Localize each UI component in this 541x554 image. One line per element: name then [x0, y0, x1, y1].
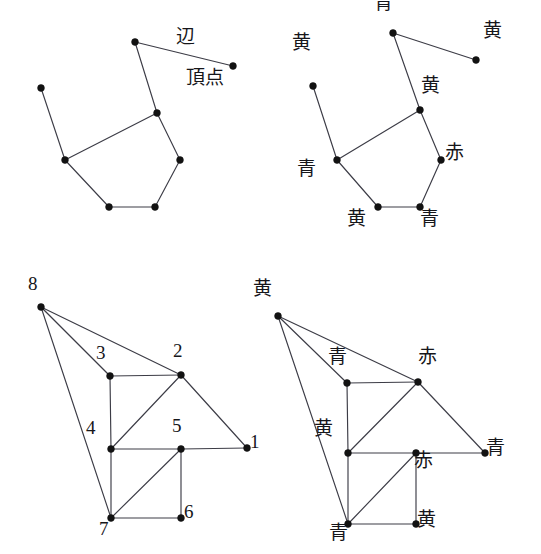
graph-vertex [108, 515, 115, 522]
graph-edge [420, 160, 441, 207]
graph-edge [65, 113, 157, 160]
vertex-label-bottom-left-2: 2 [173, 341, 183, 360]
graph-vertex [38, 304, 45, 311]
graph-vertex [62, 157, 69, 164]
graph-edge [337, 110, 420, 160]
vertex-label-bottom-left-7: 7 [99, 519, 109, 538]
graph-vertex [390, 30, 397, 37]
graph-edge [393, 33, 476, 60]
graph-edge [181, 448, 247, 449]
graph-vertex [310, 83, 317, 90]
graph-edge [111, 375, 181, 449]
graph-edge [135, 42, 157, 113]
graph-vertex [345, 450, 352, 457]
graph-vertex [178, 372, 185, 379]
graph-vertex [275, 313, 282, 320]
vertex-label-top-right-d: 黄 [421, 76, 440, 95]
graph-edge [41, 307, 111, 518]
vertex-label-bottom-right-1: 青 [486, 438, 505, 457]
graph-vertex [132, 39, 139, 46]
graph-edge [278, 316, 418, 382]
graph-edge [418, 382, 485, 453]
graph-edge [65, 160, 109, 207]
vertex-label-bottom-left-3: 3 [96, 343, 106, 362]
vertex-label-bottom-left-1: 1 [250, 432, 260, 451]
graph-edge [348, 453, 416, 524]
edge-term-label: 辺 [176, 27, 195, 46]
vertex-term-label: 頂点 [186, 68, 224, 87]
graph-edge [393, 33, 420, 110]
graph-edge [181, 375, 247, 448]
graph-vertex [230, 63, 237, 70]
vertex-label-bottom-right-5: 赤 [414, 451, 433, 470]
vertex-label-top-right-c: 黄 [292, 33, 311, 52]
vertex-label-bottom-right-8: 黄 [253, 279, 272, 298]
graph-vertex [108, 446, 115, 453]
graph-vertex [154, 110, 161, 117]
graph-edge [155, 160, 180, 207]
vertex-label-top-right-e: 青 [297, 159, 316, 178]
graph-edge [420, 110, 441, 160]
graph-vertex [334, 157, 341, 164]
graph-vertex [473, 57, 480, 64]
graph-vertex [415, 379, 422, 386]
graph-edge [110, 375, 181, 376]
graph-edge [347, 383, 348, 453]
vertex-label-bottom-left-8: 8 [28, 274, 38, 293]
graph-edge [348, 382, 418, 453]
graph-vertex [106, 204, 113, 211]
vertex-label-top-right-f: 赤 [445, 143, 464, 162]
vertex-label-bottom-right-3: 青 [328, 347, 347, 366]
graph-edge [157, 113, 180, 160]
graph-edge [337, 160, 378, 207]
vertex-label-bottom-right-7: 青 [329, 523, 348, 542]
graph-edge [111, 449, 181, 518]
graph-vertex [38, 85, 45, 92]
vertex-label-bottom-left-4: 4 [86, 418, 96, 437]
graph-vertex [177, 157, 184, 164]
graph-vertex [178, 446, 185, 453]
graph-vertex [344, 380, 351, 387]
vertex-label-top-right-b: 黄 [483, 21, 502, 40]
graph-vertex [152, 204, 159, 211]
vertex-label-top-right-h: 青 [420, 209, 439, 228]
figure-root: 辺頂点青黄黄黄青赤黄青83245176黄青赤黄赤青青黄 [0, 0, 541, 554]
graph-edge [110, 376, 111, 449]
vertex-label-bottom-left-5: 5 [172, 416, 182, 435]
vertex-label-top-right-a: 青 [374, 0, 393, 12]
graph-edge [41, 88, 65, 160]
vertex-label-bottom-right-4: 黄 [314, 419, 333, 438]
vertex-label-bottom-right-2: 赤 [418, 347, 437, 366]
graph-vertex [375, 204, 382, 211]
graph-vertex [107, 373, 114, 380]
vertex-label-bottom-left-6: 6 [184, 502, 194, 521]
graph-vertex [417, 107, 424, 114]
graph-edge [41, 307, 181, 375]
graph-vertex [438, 157, 445, 164]
graph-edge [347, 382, 418, 383]
vertex-label-top-right-g: 黄 [347, 209, 366, 228]
vertex-label-bottom-right-6: 黄 [417, 510, 436, 529]
graph-edge [313, 86, 337, 160]
